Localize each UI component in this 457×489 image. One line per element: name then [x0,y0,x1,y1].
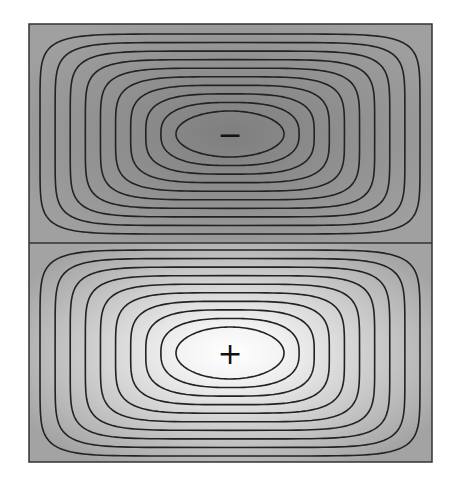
contour-diagram: − + [0,0,457,489]
positive-sign-label: + [217,336,242,371]
negative-sign-label: − [217,117,242,152]
